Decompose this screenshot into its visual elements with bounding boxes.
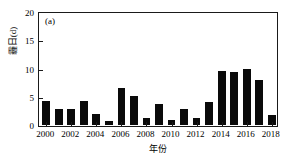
x-axis-title: 年份 [38, 144, 278, 155]
y-tick-label: 10 [14, 65, 34, 74]
y-tick-mark [39, 98, 43, 99]
x-tick-label: 2008 [136, 129, 154, 140]
y-tick-label: 20 [14, 9, 34, 18]
bar [80, 101, 88, 125]
x-tick-label: 2000 [36, 129, 54, 140]
bar [255, 80, 263, 125]
x-tick-label: 2004 [86, 129, 104, 140]
bar [243, 69, 251, 125]
x-tick-mark [172, 122, 173, 126]
x-tick-label: 2006 [111, 129, 129, 140]
x-tick-mark [272, 122, 273, 126]
x-tick-mark [121, 122, 122, 126]
x-tick-mark [222, 122, 223, 126]
x-tick-mark [247, 122, 248, 126]
y-axis-tick-labels: 05101520 [14, 0, 34, 160]
plot-area: (a) [38, 12, 278, 127]
bar [155, 104, 163, 125]
x-axis-tick-labels: 2000200220042006200820102012201420162018 [38, 129, 278, 143]
y-tick-label: 5 [14, 93, 34, 102]
bar [180, 109, 188, 125]
bar [118, 88, 126, 125]
x-tick-label: 2002 [61, 129, 79, 140]
bar [230, 72, 238, 125]
x-tick-label: 2010 [162, 129, 180, 140]
haze-days-bar-chart: 霾日(d) 05101520 (a) 200020022004200620082… [0, 0, 283, 160]
bar-series [40, 14, 276, 125]
bar [205, 102, 213, 125]
x-tick-label: 2016 [237, 129, 255, 140]
bar [55, 109, 63, 125]
bar [218, 71, 226, 125]
x-tick-mark [46, 122, 47, 126]
y-tick-mark [39, 41, 43, 42]
y-tick-label: 0 [14, 122, 34, 131]
x-tick-mark [96, 122, 97, 126]
x-tick-label: 2012 [187, 129, 205, 140]
bar [105, 121, 113, 125]
x-tick-mark [146, 122, 147, 126]
y-tick-mark [39, 70, 43, 71]
y-tick-label: 15 [14, 37, 34, 46]
bar [130, 96, 138, 125]
x-tick-mark [197, 122, 198, 126]
x-tick-label: 2018 [262, 129, 280, 140]
x-tick-label: 2014 [212, 129, 230, 140]
x-tick-mark [71, 122, 72, 126]
